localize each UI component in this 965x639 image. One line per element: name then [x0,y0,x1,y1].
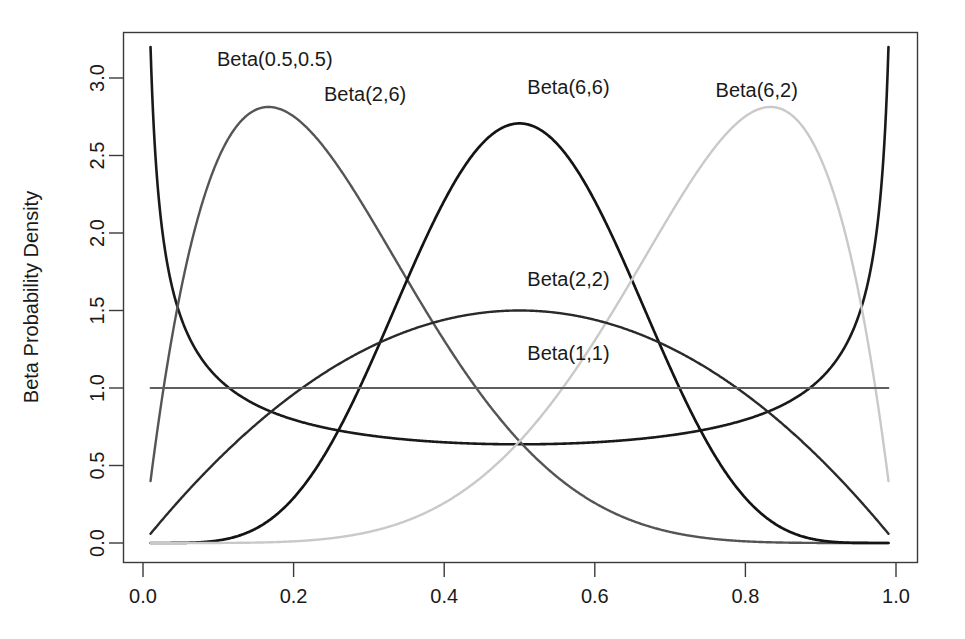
curve-label-beta62: Beta(6,2) [716,79,798,101]
curve-beta66 [151,123,889,543]
curve-group [151,47,889,543]
beta-density-chart-figure: Beta(0.5,0.5)Beta(2,6)Beta(6,6)Beta(6,2)… [0,0,965,639]
x-tick-label: 0.6 [581,585,609,607]
y-tick-label: 1.0 [86,374,108,402]
y-tick-label: 3.0 [86,64,108,92]
y-tick-label: 1.5 [86,297,108,325]
y-tick-label: 2.5 [86,142,108,170]
y-axis-tick-labels: 0.00.51.01.52.02.53.0 [86,64,108,557]
x-tick-label: 0.2 [280,585,308,607]
x-tick-label: 0.4 [430,585,458,607]
x-axis-ticks [143,563,896,577]
curve-beta26 [151,107,889,543]
curve-label-group: Beta(0.5,0.5)Beta(2,6)Beta(6,6)Beta(6,2)… [217,48,798,365]
y-axis-title: Beta Probability Density [20,191,42,403]
curve-label-beta66: Beta(6,6) [527,76,609,98]
y-tick-label: 0.5 [86,452,108,480]
curve-label-beta11: Beta(1,1) [527,342,609,364]
y-tick-label: 2.0 [86,219,108,247]
x-axis-tick-labels: 0.00.20.40.60.81.0 [129,585,910,607]
curve-beta22 [151,311,889,534]
curve-beta62 [151,107,889,543]
curve-label-beta0505: Beta(0.5,0.5) [217,48,333,70]
y-tick-label: 0.0 [86,529,108,557]
x-tick-label: 0.8 [731,585,759,607]
x-tick-label: 1.0 [882,585,910,607]
curve-label-beta22: Beta(2,2) [527,268,609,290]
x-tick-label: 0.0 [129,585,157,607]
curve-label-beta26: Beta(2,6) [324,83,406,105]
y-axis-ticks [109,78,123,543]
plot-frame [124,33,918,563]
beta-density-plot: Beta(0.5,0.5)Beta(2,6)Beta(6,6)Beta(6,2)… [0,0,965,639]
